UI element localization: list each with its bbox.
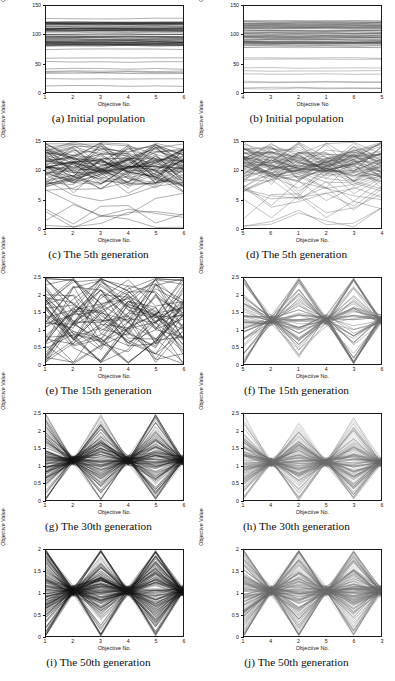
x-tick-label: 5 (155, 94, 158, 101)
x-tick-label: 4 (127, 502, 130, 509)
chart-panel-e: Objective Value00.511.522.5123456Objecti… (0, 272, 197, 408)
panel-caption-e: (e) The 15th generation (0, 384, 197, 396)
x-tick-label: 3 (99, 94, 102, 101)
y-tick-label: 100 (32, 31, 41, 37)
y-axis-title: Objective Value (0, 347, 9, 435)
x-tick-label: 6 (353, 94, 356, 101)
y-tick-label: 0 (38, 634, 41, 640)
x-axis-title: Objective No. (45, 101, 184, 107)
x-tick-label: 3 (99, 230, 102, 237)
x-tick-label: 6 (182, 502, 185, 509)
x-tick-label: 2 (297, 638, 300, 645)
y-tick-label: 0.5 (34, 612, 41, 618)
y-tick-label: 50 (35, 61, 41, 67)
x-axis-title: Objective No. (45, 373, 184, 379)
y-tick-label: 1 (236, 463, 239, 469)
x-tick-label: 2 (71, 230, 74, 237)
y-axis-ticks: 00.511.522.5 (14, 272, 43, 370)
x-axis-title: Objective No. (45, 237, 184, 243)
x-tick-label: 1 (297, 366, 300, 373)
y-tick-label: 1.5 (232, 568, 239, 574)
y-tick-label: 10 (35, 167, 41, 173)
plot-area-c (45, 141, 184, 229)
x-tick-label: 4 (127, 230, 130, 237)
y-tick-label: 1 (38, 590, 41, 596)
x-tick-label: 2 (71, 638, 74, 645)
x-tick-label: 5 (325, 502, 328, 509)
x-tick-label: 2 (269, 366, 272, 373)
plot-area-i (45, 549, 184, 637)
y-axis-title: Objective Value (196, 0, 207, 27)
x-tick-label: 6 (182, 366, 185, 373)
y-tick-label: 5 (236, 197, 239, 203)
x-tick-label: 3 (353, 366, 356, 373)
x-tick-label: 4 (127, 638, 130, 645)
y-axis-ticks: 00.511.52 (14, 544, 43, 642)
y-tick-label: 150 (32, 2, 41, 8)
y-tick-label: 2 (38, 546, 41, 552)
plot-area-d (243, 141, 382, 229)
y-tick-label: 2.5 (232, 410, 239, 416)
chart-panel-i: Objective Value00.511.52123456Objective … (0, 544, 197, 680)
y-axis-title: Objective Value (0, 0, 9, 27)
y-tick-label: 0 (236, 362, 239, 368)
chart-panel-f: Objective Value00.511.522.5521436Objecti… (198, 272, 395, 408)
y-tick-label: 10 (233, 167, 239, 173)
chart-panel-h: Objective Value00.511.522.5142536Objecti… (198, 408, 395, 544)
x-tick-label: 2 (297, 502, 300, 509)
y-tick-label: 2 (236, 292, 239, 298)
x-tick-label: 6 (182, 94, 185, 101)
y-tick-label: 0.5 (34, 344, 41, 350)
y-tick-label: 0 (236, 498, 239, 504)
y-axis-ticks: 050100150 (212, 0, 241, 98)
x-tick-label: 5 (155, 366, 158, 373)
x-tick-label: 4 (269, 638, 272, 645)
x-tick-label: 5 (155, 502, 158, 509)
y-tick-label: 2 (236, 546, 239, 552)
x-tick-label: 6 (182, 230, 185, 237)
x-tick-label: 3 (353, 230, 356, 237)
plot-area-g (45, 413, 184, 501)
panel-caption-d: (d) The 5th generation (198, 248, 395, 260)
x-tick-label: 4 (127, 366, 130, 373)
x-tick-label: 5 (241, 230, 244, 237)
y-tick-label: 1.5 (232, 445, 239, 451)
chart-panel-b: Objective Value050100150432165Objective … (198, 0, 395, 136)
x-axis-title: Objective No. (243, 509, 382, 515)
plot-area-f (243, 277, 382, 365)
x-tick-label: 6 (269, 230, 272, 237)
plot-area-b (243, 5, 382, 93)
y-axis-title: Objective Value (0, 483, 9, 571)
x-tick-label: 6 (353, 638, 356, 645)
x-tick-label: 2 (71, 94, 74, 101)
y-tick-label: 2 (38, 428, 41, 434)
y-axis-title: Objective Value (196, 75, 207, 163)
x-tick-label: 5 (325, 638, 328, 645)
y-axis-ticks: 00.511.52 (212, 544, 241, 642)
x-tick-label: 5 (241, 366, 244, 373)
panel-caption-i: (i) The 50th generation (0, 656, 197, 668)
x-axis-title: Objective No. (45, 645, 184, 651)
x-tick-label: 2 (71, 502, 74, 509)
chart-panel-j: Objective Value00.511.52142563Objective … (198, 544, 395, 680)
y-tick-label: 0.5 (34, 480, 41, 486)
x-tick-label: 5 (380, 94, 383, 101)
y-tick-label: 50 (233, 61, 239, 67)
y-axis-ticks: 00.511.522.5 (14, 408, 43, 506)
y-tick-label: 15 (233, 138, 239, 144)
x-tick-label: 3 (269, 94, 272, 101)
x-axis-title: Objective No. (243, 237, 382, 243)
x-tick-label: 1 (43, 502, 46, 509)
plot-area-j (243, 549, 382, 637)
x-tick-label: 4 (127, 94, 130, 101)
x-tick-label: 2 (297, 94, 300, 101)
y-tick-label: 0 (38, 362, 41, 368)
x-axis-title: Objective No (243, 101, 382, 107)
y-tick-label: 2 (236, 428, 239, 434)
x-tick-label: 2 (71, 366, 74, 373)
chart-panel-c: Objective Value051015123456Objective No.… (0, 136, 197, 272)
x-tick-label: 1 (43, 638, 46, 645)
chart-panel-d: Objective Value051015561234Objective No.… (198, 136, 395, 272)
y-axis-title: Objective Value (0, 211, 9, 299)
y-tick-label: 0 (38, 226, 41, 232)
